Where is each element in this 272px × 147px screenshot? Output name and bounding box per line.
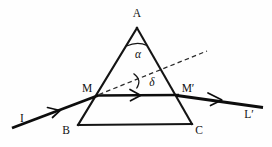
apex-angle-label: α [135, 48, 142, 60]
internal-ray-line [96, 95, 179, 96]
prism-refraction-figure: A α δ M M′ B C I L′ [0, 0, 272, 147]
emergent-ray-label: L′ [244, 108, 254, 120]
bottom-right-label: C [195, 124, 203, 136]
figure-canvas: A α δ M M′ B C I L′ [0, 0, 272, 147]
apex-label: A [133, 7, 142, 19]
apex-angle-arc [127, 43, 148, 46]
bottom-left-label: B [62, 124, 70, 136]
prism-left-edge [78, 28, 137, 125]
deviation-angle-label: δ [149, 76, 155, 88]
prism-outline [78, 28, 192, 125]
prism-base-edge [78, 124, 192, 125]
entry-point-label: M [82, 82, 92, 94]
exit-point-label: M′ [182, 82, 195, 94]
incident-ray-label: I [20, 112, 24, 124]
emergent-ray-group [177, 93, 263, 108]
deviation-angle-arc [134, 74, 139, 89]
